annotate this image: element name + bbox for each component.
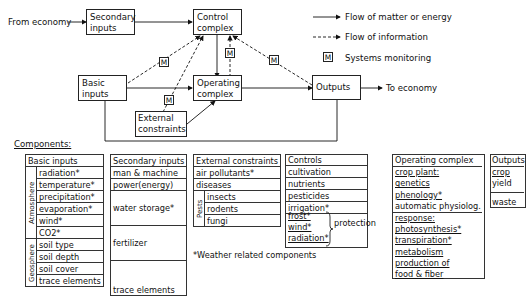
list-item: food & fiber — [395, 269, 482, 280]
legend-monitor-icon: M — [323, 52, 333, 62]
table-cell: man & machine — [111, 167, 187, 179]
pests-label: Pests — [194, 191, 205, 227]
table-cell: trace elements — [37, 275, 104, 287]
table-cell: soil cover — [37, 263, 104, 275]
table-header: Controls — [286, 154, 368, 166]
legend-monitoring-label: Systems monitoring — [345, 53, 431, 63]
node-line: Secondary — [90, 12, 131, 23]
node-line: complex — [197, 23, 238, 34]
node-line: Basic — [82, 78, 123, 89]
node-line: inputs — [90, 23, 131, 34]
from-economy-label: From economy — [8, 17, 71, 27]
table-cell: rodents — [205, 203, 281, 215]
atmosphere-label: Atmosphere — [26, 167, 37, 239]
list-item: crop plant: — [395, 167, 482, 178]
protection-label: protection — [334, 218, 376, 229]
basic-inputs-table: Basic inputs Atmosphere radiation* tempe… — [25, 154, 104, 287]
table-header: Basic inputs — [26, 155, 104, 167]
table-cell: precipitation* — [37, 191, 104, 203]
control-complex-node: Control complex — [193, 9, 242, 35]
basic-inputs-node: Basic inputs — [78, 75, 127, 101]
table-cell: power(energy) — [111, 179, 187, 191]
list-item: crop — [492, 167, 524, 178]
list-item: transpiration* — [395, 235, 482, 246]
monitor-icon: M — [164, 95, 174, 105]
operating-complex-list: Operating complex crop plant: genetics p… — [395, 155, 482, 280]
table-cell: wind* — [37, 215, 104, 227]
table-cell: temperature* — [37, 179, 104, 191]
table-header: Operating complex — [392, 155, 482, 167]
protection-item: frost* — [288, 211, 329, 222]
list-item: production of — [395, 258, 482, 269]
brace-icon — [324, 211, 334, 247]
components-title: Components: — [14, 139, 71, 149]
operating-complex-node: Operating complex — [193, 75, 242, 101]
outputs-node: Outputs — [312, 75, 361, 100]
table-cell: nutrients — [286, 178, 368, 190]
list-item: photosynthesis* — [395, 224, 482, 235]
node-line: Outputs — [316, 82, 350, 92]
monitor-icon: M — [159, 57, 169, 67]
list-item: yield — [490, 178, 524, 193]
external-constraints-node: External constraints — [135, 111, 187, 137]
table-cell: water storage* — [111, 191, 187, 226]
external-constraints-table: External constraints air pollutants* dis… — [193, 154, 281, 227]
to-economy-label: To economy — [386, 83, 437, 93]
table-header: Outputs — [490, 155, 524, 167]
list-item: automatic physiolog. — [392, 201, 482, 213]
table-cell: cultivation — [286, 166, 368, 178]
list-item: response: — [395, 213, 482, 224]
list-item: genetics — [395, 178, 482, 189]
node-line: complex — [197, 89, 238, 100]
table-cell: soil depth — [37, 251, 104, 263]
table-cell: radiation* — [37, 167, 104, 179]
protection-list: frost* wind* radiation* — [288, 211, 329, 245]
protection-item: radiation* — [288, 233, 329, 244]
table-cell: evaporation* — [37, 203, 104, 215]
monitor-icon: M — [225, 48, 235, 58]
table-cell: CO2* — [37, 227, 104, 239]
table-header: Secondary inputs — [111, 155, 187, 167]
list-item: metabolism — [395, 247, 482, 258]
table-cell: soil type — [37, 239, 104, 251]
list-item: waste — [492, 197, 524, 208]
table-cell: trace elements — [111, 261, 187, 296]
monitor-icon: M — [269, 55, 279, 65]
node-line: inputs — [82, 89, 123, 100]
protection-item: wind* — [288, 222, 329, 233]
list-item: phenology* — [395, 190, 482, 201]
table-cell: air pollutants* — [194, 167, 281, 179]
table-cell: fertilizer — [111, 226, 187, 261]
geosphere-label: Geosphere — [26, 239, 37, 287]
footnote: *Weather related components — [193, 250, 316, 261]
secondary-inputs-node: Secondary inputs — [86, 9, 135, 35]
node-line: Operating — [197, 78, 238, 89]
legend-matter-label: Flow of matter or energy — [345, 12, 452, 22]
controls-table: Controls cultivation nutrients pesticide… — [286, 154, 368, 214]
table-header: External constraints — [194, 155, 281, 167]
table-cell: fungi — [205, 215, 281, 227]
secondary-inputs-table: Secondary inputs man & machine power(ene… — [110, 154, 187, 296]
node-line: constraints — [138, 124, 184, 135]
table-cell: diseases — [194, 179, 281, 191]
table-cell: insects — [205, 191, 281, 203]
outputs-list: Outputs crop yield waste — [492, 155, 524, 209]
table-cell: pesticides — [286, 190, 368, 202]
node-line: Control — [197, 12, 238, 23]
legend-information-label: Flow of information — [345, 32, 428, 42]
node-line: External — [138, 113, 184, 124]
